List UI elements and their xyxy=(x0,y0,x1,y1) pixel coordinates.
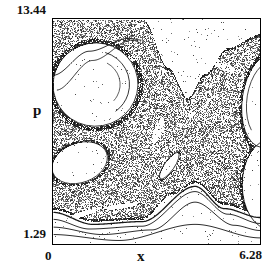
plot-area xyxy=(52,18,261,245)
x-axis-min-label: 0 xyxy=(45,249,52,262)
x-axis-title: x xyxy=(137,249,145,264)
y-axis-min-label: 1.29 xyxy=(6,227,46,240)
phase-space-scatter-canvas xyxy=(53,19,260,244)
x-axis-max-label: 6.28 xyxy=(222,248,262,261)
poincare-section-figure: 13.44 p 1.29 0 x 6.28 xyxy=(0,0,272,280)
y-axis-title: p xyxy=(33,103,41,118)
y-axis-max-label: 13.44 xyxy=(6,3,46,16)
